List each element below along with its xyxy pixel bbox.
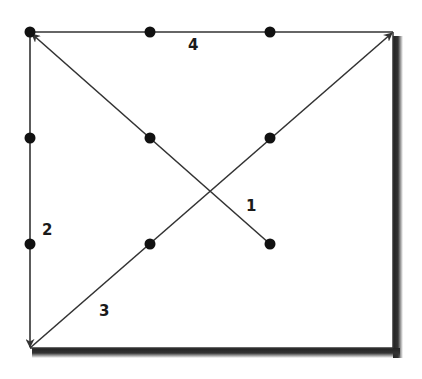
dot [25,239,36,250]
dot [25,133,36,144]
dot [145,27,156,38]
dot [145,239,156,250]
dot [145,133,156,144]
dot [265,239,276,250]
line-label-4: 4 [188,36,198,54]
dot [265,133,276,144]
dot [265,27,276,38]
nine-dots-diagram [0,0,422,379]
line-label-1: 1 [246,197,256,215]
line-label-2: 2 [42,221,52,239]
solution-lines [30,32,393,348]
line-label-3: 3 [99,302,109,320]
dot [25,27,36,38]
